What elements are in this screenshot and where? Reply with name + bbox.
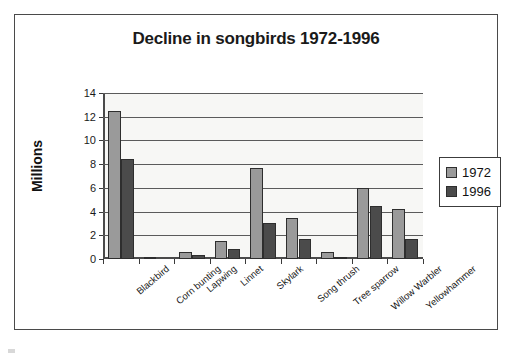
bar-1996 <box>334 257 347 259</box>
legend-label-1996: 1996 <box>462 184 491 199</box>
bar-1972 <box>144 257 157 259</box>
page-speck <box>8 349 15 353</box>
x-axis-label: Blackbird <box>134 263 171 297</box>
bar-1972 <box>108 111 121 259</box>
bar-1996 <box>192 255 205 259</box>
bar-1972 <box>286 218 299 260</box>
bar-group <box>316 93 352 259</box>
chart-legend: 1972 1996 <box>439 157 501 207</box>
bar-group <box>245 93 281 259</box>
bar-group <box>103 93 139 259</box>
bar-1972 <box>179 252 192 259</box>
legend-swatch-1996-icon <box>446 186 457 197</box>
y-tick-label: 2 <box>90 229 96 241</box>
bar-1972 <box>357 188 370 259</box>
bar-1996 <box>299 239 312 259</box>
bar-1972 <box>321 252 334 259</box>
legend-entry-1996: 1996 <box>446 182 495 201</box>
y-tick-label: 14 <box>84 87 96 99</box>
legend-label-1972: 1972 <box>462 165 491 180</box>
bar-group <box>387 93 423 259</box>
y-tick-label: 0 <box>90 253 96 265</box>
y-tick-label: 6 <box>90 182 96 194</box>
y-tick-label: 8 <box>90 158 96 170</box>
bar-group <box>139 93 175 259</box>
y-tick-label: 10 <box>84 134 96 146</box>
x-axis-label: Skylark <box>275 263 306 291</box>
legend-swatch-1972-icon <box>446 167 457 178</box>
bar-1972 <box>250 168 263 259</box>
bar-1996 <box>405 239 418 259</box>
chart-frame: Decline in songbirds 1972-1996 Millions … <box>14 14 498 330</box>
bar-1996 <box>370 206 383 259</box>
y-tick-label: 4 <box>90 206 96 218</box>
legend-entry-1972: 1972 <box>446 163 495 182</box>
bar-group <box>210 93 246 259</box>
x-axis-labels: BlackbirdCorn buntingLapwingLinnetSkylar… <box>103 263 443 343</box>
bar-group <box>352 93 388 259</box>
bar-1996 <box>228 249 241 259</box>
chart-title: Decline in songbirds 1972-1996 <box>15 29 497 49</box>
plot-wrap: 02468101214 <box>103 93 423 259</box>
bar-1972 <box>392 209 405 259</box>
x-axis-label: Linnet <box>238 263 265 288</box>
bar-group <box>281 93 317 259</box>
bar-1972 <box>215 241 228 259</box>
bar-1996 <box>121 159 134 259</box>
y-axis-title: Millions <box>29 111 45 221</box>
bars-layer <box>103 93 423 259</box>
y-tick-label: 12 <box>84 111 96 123</box>
bar-group <box>174 93 210 259</box>
bar-1996 <box>263 223 276 259</box>
